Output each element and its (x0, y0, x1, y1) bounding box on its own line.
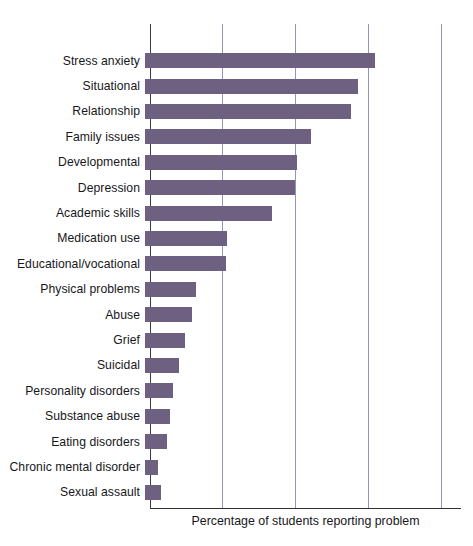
bar-category-label: Academic skills (0, 207, 145, 219)
bar-category-label: Physical problems (0, 283, 145, 295)
bar (145, 307, 192, 322)
bar-category-label: Medication use (0, 232, 145, 244)
x-axis-title: Percentage of students reporting problem (150, 514, 461, 528)
bar (145, 383, 173, 398)
bar (145, 256, 226, 271)
bar (145, 333, 185, 348)
bar-row: Educational/vocational (0, 251, 473, 276)
bar-category-label: Family issues (0, 131, 145, 143)
bar-row: Relationship (0, 99, 473, 124)
bar-track (145, 175, 473, 200)
bar-row: Eating disorders (0, 429, 473, 454)
bar-row: Personality disorders (0, 378, 473, 403)
bar-row: Grief (0, 327, 473, 352)
bar-track (145, 251, 473, 276)
bar-track (145, 150, 473, 175)
bar-category-label: Eating disorders (0, 436, 145, 448)
bar-track (145, 454, 473, 479)
bar-row: Abuse (0, 302, 473, 327)
bar-category-label: Depression (0, 182, 145, 194)
bar (145, 79, 358, 94)
bar-track (145, 353, 473, 378)
bar-chart: Stress anxietySituationalRelationshipFam… (0, 0, 473, 546)
bar-category-label: Relationship (0, 105, 145, 117)
bar-track (145, 48, 473, 73)
bar-row: Situational (0, 73, 473, 98)
bar-row: Stress anxiety (0, 48, 473, 73)
bar-row: Family issues (0, 124, 473, 149)
bar (145, 180, 295, 195)
bar (145, 129, 311, 144)
bar (145, 434, 167, 449)
bar-category-label: Sexual assault (0, 486, 145, 498)
bar-track (145, 200, 473, 225)
x-axis-line (150, 508, 461, 509)
bar (145, 282, 196, 297)
bar (145, 460, 158, 475)
bar-rows: Stress anxietySituationalRelationshipFam… (0, 24, 473, 508)
bar-track (145, 99, 473, 124)
bar (145, 155, 297, 170)
bar-track (145, 404, 473, 429)
bar-row: Suicidal (0, 353, 473, 378)
bar-track (145, 302, 473, 327)
bar-category-label: Substance abuse (0, 410, 145, 422)
bar-track (145, 480, 473, 505)
bar-category-label: Situational (0, 80, 145, 92)
bar-category-label: Grief (0, 334, 145, 346)
bar-track (145, 429, 473, 454)
bar (145, 53, 375, 68)
bar-category-label: Abuse (0, 309, 145, 321)
bar-row: Physical problems (0, 277, 473, 302)
bar-category-label: Educational/vocational (0, 258, 145, 270)
bar-category-label: Suicidal (0, 359, 145, 371)
bar-row: Developmental (0, 150, 473, 175)
bar-row: Chronic mental disorder (0, 454, 473, 479)
bar-track (145, 378, 473, 403)
bar-category-label: Developmental (0, 156, 145, 168)
bar-track (145, 327, 473, 352)
bar-row: Depression (0, 175, 473, 200)
bar-category-label: Stress anxiety (0, 55, 145, 67)
bar (145, 104, 351, 119)
bar-track (145, 226, 473, 251)
bar-row: Academic skills (0, 200, 473, 225)
bar (145, 231, 227, 246)
bar-row: Sexual assault (0, 480, 473, 505)
bar-category-label: Chronic mental disorder (0, 461, 145, 473)
bar-track (145, 277, 473, 302)
bar (145, 485, 161, 500)
bar (145, 358, 179, 373)
bar-category-label: Personality disorders (0, 385, 145, 397)
bar (145, 206, 272, 221)
bar-track (145, 73, 473, 98)
bar-track (145, 124, 473, 149)
bar-row: Substance abuse (0, 404, 473, 429)
bar-row: Medication use (0, 226, 473, 251)
bar (145, 409, 170, 424)
